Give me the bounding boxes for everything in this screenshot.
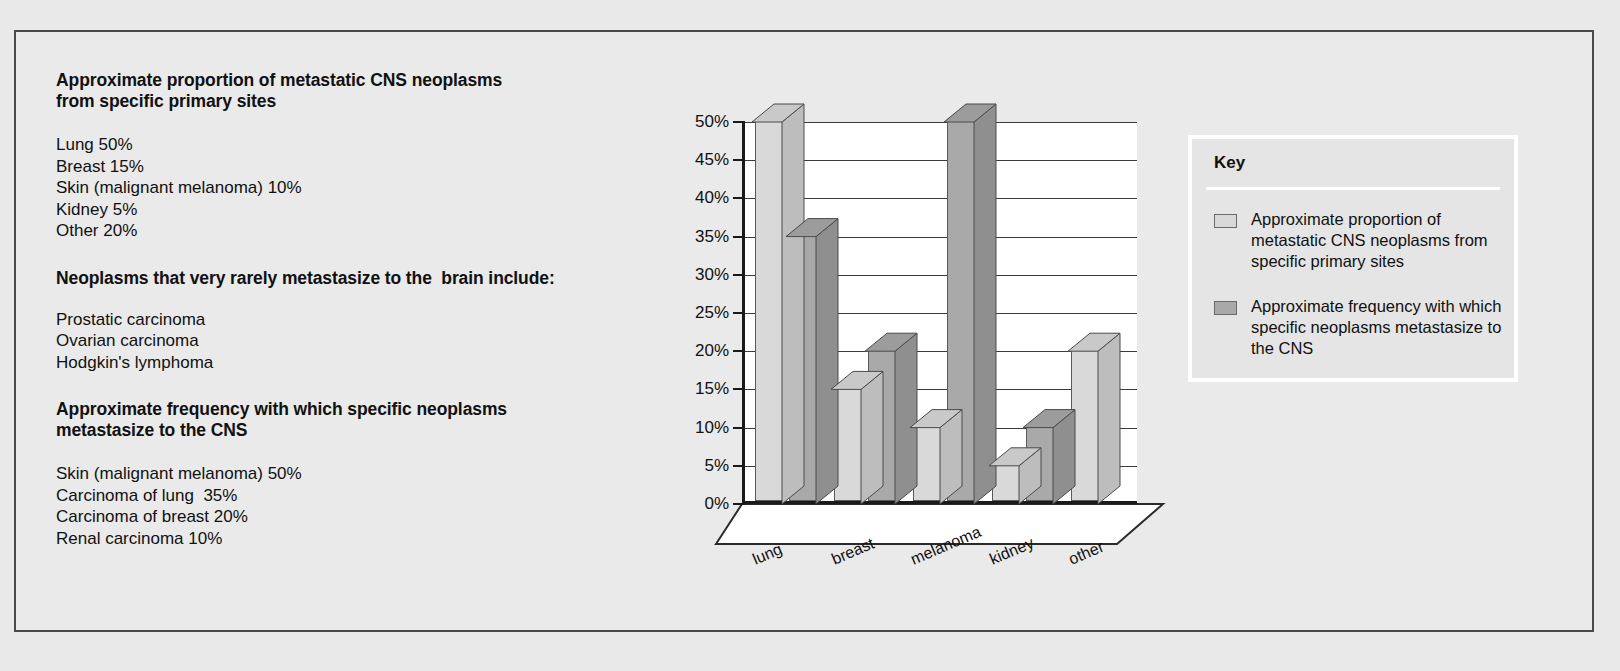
y-axis-tick-label: 40% bbox=[695, 188, 729, 208]
figure-frame: Approximate proportion of metastatic CNS… bbox=[14, 30, 1594, 632]
y-axis-tick-label: 30% bbox=[695, 265, 729, 285]
bar-face bbox=[947, 119, 977, 501]
chart-plot-area: 0%5%10%15%20%25%30%35%40%45%50% bbox=[742, 122, 1137, 504]
section-heading-proportion: Approximate proportion of metastatic CNS… bbox=[56, 70, 656, 112]
y-axis-tick bbox=[733, 427, 745, 429]
list-item: Lung 50% bbox=[56, 134, 656, 156]
y-axis-tick-label: 35% bbox=[695, 227, 729, 247]
bar-face bbox=[755, 119, 785, 501]
list-item: Breast 15% bbox=[56, 156, 656, 178]
bar bbox=[1026, 425, 1056, 501]
bar bbox=[755, 119, 785, 501]
bar-face bbox=[868, 348, 898, 501]
y-axis-tick-label: 45% bbox=[695, 150, 729, 170]
y-axis-tick bbox=[733, 274, 745, 276]
bar-face bbox=[1071, 348, 1101, 501]
section-heading-frequency: Approximate frequency with which specifi… bbox=[56, 399, 656, 441]
chart-legend: Key Approximate proportion of metastatic… bbox=[1188, 135, 1518, 382]
list-item: Prostatic carcinoma bbox=[56, 309, 656, 331]
y-axis-tick-label: 25% bbox=[695, 303, 729, 323]
y-axis-tick bbox=[733, 388, 745, 390]
y-axis-tick bbox=[733, 121, 745, 123]
bar bbox=[789, 234, 819, 501]
gridline bbox=[745, 122, 1137, 123]
y-axis-tick bbox=[733, 350, 745, 352]
bar bbox=[992, 463, 1022, 501]
legend-divider bbox=[1206, 187, 1500, 190]
legend-item-label: Approximate frequency with which specifi… bbox=[1251, 296, 1509, 359]
y-axis-tick bbox=[733, 312, 745, 314]
list-item: Ovarian carcinoma bbox=[56, 330, 656, 352]
bar bbox=[834, 386, 864, 501]
x-axis-category-label: lung bbox=[750, 540, 785, 568]
y-axis-tick-label: 0% bbox=[704, 494, 729, 514]
bar bbox=[868, 348, 898, 501]
bar-face bbox=[789, 234, 819, 501]
x-axis-category-label: melanoma bbox=[908, 523, 984, 569]
y-axis-tick bbox=[733, 159, 745, 161]
x-axis-category-label: breast bbox=[829, 535, 877, 569]
y-axis-tick bbox=[733, 197, 745, 199]
y-axis-tick-label: 5% bbox=[704, 456, 729, 476]
y-axis-tick-label: 50% bbox=[695, 112, 729, 132]
section-heading-rarely-metastasize: Neoplasms that very rarely metastasize t… bbox=[56, 268, 656, 289]
y-axis-tick bbox=[733, 236, 745, 238]
list-item: Skin (malignant melanoma) 10% bbox=[56, 177, 656, 199]
list-item: Hodgkin's lymphoma bbox=[56, 352, 656, 374]
legend-swatch-icon bbox=[1214, 214, 1237, 228]
bar-face bbox=[1026, 425, 1056, 501]
legend-title: Key bbox=[1214, 153, 1245, 173]
list-item: Renal carcinoma 10% bbox=[56, 528, 656, 550]
figure-page: Approximate proportion of metastatic CNS… bbox=[0, 0, 1620, 671]
bar bbox=[1071, 348, 1101, 501]
bar bbox=[913, 425, 943, 501]
list-item: Carcinoma of lung 35% bbox=[56, 485, 656, 507]
y-axis-tick-label: 15% bbox=[695, 379, 729, 399]
legend-item: Approximate frequency with which specifi… bbox=[1214, 296, 1509, 359]
list-item: Skin (malignant melanoma) 50% bbox=[56, 463, 656, 485]
y-axis-tick bbox=[733, 503, 745, 505]
y-axis-tick-label: 10% bbox=[695, 418, 729, 438]
legend-item: Approximate proportion of metastatic CNS… bbox=[1214, 209, 1509, 272]
x-axis-category-label: kidney bbox=[987, 534, 1037, 569]
bar bbox=[947, 119, 977, 501]
bar-face bbox=[913, 425, 943, 501]
y-axis-tick-label: 20% bbox=[695, 341, 729, 361]
legend-item-label: Approximate proportion of metastatic CNS… bbox=[1251, 209, 1509, 272]
bar-face bbox=[992, 463, 1022, 501]
list-item: Carcinoma of breast 20% bbox=[56, 506, 656, 528]
bar-face bbox=[834, 386, 864, 501]
gridline bbox=[745, 160, 1137, 161]
y-axis-tick bbox=[733, 465, 745, 467]
gridline bbox=[745, 198, 1137, 199]
list-item: Kidney 5% bbox=[56, 199, 656, 221]
bar-chart: 0%5%10%15%20%25%30%35%40%45%50% lungbrea… bbox=[664, 92, 1184, 592]
text-panel: Approximate proportion of metastatic CNS… bbox=[56, 70, 656, 549]
legend-swatch-icon bbox=[1214, 301, 1237, 315]
x-axis-category-label: other bbox=[1066, 538, 1107, 569]
list-item: Other 20% bbox=[56, 220, 656, 242]
